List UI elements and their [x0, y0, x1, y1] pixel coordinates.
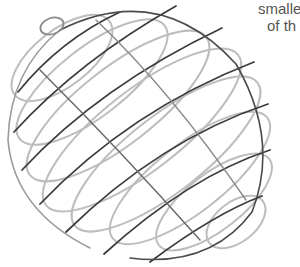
caption-line-2: of th: [267, 17, 296, 34]
caption-line-1: smalle: [258, 0, 300, 17]
wire-sphere-figure: [0, 0, 300, 267]
hoops-back: [0, 0, 288, 267]
wire-sphere-illustration: [0, 0, 300, 267]
top-loop: [38, 14, 66, 37]
